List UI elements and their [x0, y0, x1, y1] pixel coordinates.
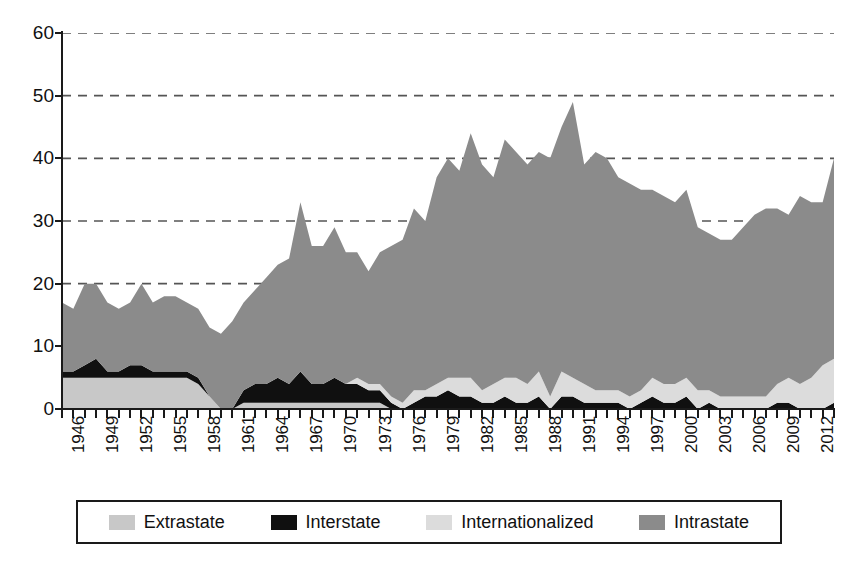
x-axis-tick-label: 1949 [103, 416, 123, 453]
x-axis-tick [674, 410, 676, 418]
y-axis-tick-label: 10 [18, 336, 54, 355]
x-axis-tick [95, 410, 97, 418]
x-axis-tick [333, 410, 335, 418]
x-axis-tick [265, 410, 267, 418]
x-axis-tick [129, 410, 131, 418]
y-axis-tick-label: 40 [18, 148, 54, 167]
x-axis-tick [640, 410, 642, 418]
y-axis-tick-label: 60 [18, 23, 54, 42]
x-axis-tick-label: 2000 [682, 416, 702, 453]
x-axis-tick-label: 1946 [69, 416, 89, 453]
x-axis-tick [708, 410, 710, 418]
legend-item-internationalized[interactable]: Internationalized [426, 513, 593, 531]
x-axis-tick-label: 2003 [716, 416, 736, 453]
stacked-area-chart [62, 33, 834, 409]
x-axis-tick [231, 410, 233, 418]
x-axis-tick-label: 2012 [818, 416, 838, 453]
plot-area [62, 33, 834, 409]
legend-label: Intrastate [674, 513, 749, 531]
x-axis-tick-label: 1961 [239, 416, 259, 453]
x-axis-tick-label: 1979 [444, 416, 464, 453]
x-axis-tick-label: 1982 [478, 416, 498, 453]
legend-label: Extrastate [144, 513, 225, 531]
x-axis-tick-label: 1976 [410, 416, 430, 453]
y-axis-tick-label: 0 [18, 399, 54, 418]
x-axis-tick-label: 2009 [784, 416, 804, 453]
x-axis-tick-label: 1997 [648, 416, 668, 453]
x-axis-tick [197, 410, 199, 418]
x-axis-tick [742, 410, 744, 418]
legend-item-intrastate[interactable]: Intrastate [639, 513, 749, 531]
legend-swatch-icon [426, 515, 452, 530]
x-axis-tick-label: 1973 [376, 416, 396, 453]
x-axis-tick [436, 410, 438, 418]
legend-swatch-icon [271, 515, 297, 530]
x-axis-tick [504, 410, 506, 418]
x-axis-tick-label: 1970 [341, 416, 361, 453]
x-axis-tick [538, 410, 540, 418]
x-axis-tick [299, 410, 301, 418]
legend-swatch-icon [109, 515, 135, 530]
x-axis-tick [606, 410, 608, 418]
y-axis-tick-label: 50 [18, 86, 54, 105]
chart-legend: ExtrastateInterstateInternationalizedInt… [76, 500, 782, 544]
x-axis-tick [776, 410, 778, 418]
y-axis-tick-label: 20 [18, 274, 54, 293]
x-axis-tick-label: 1985 [512, 416, 532, 453]
y-axis-labels: 6050403020100 [8, 0, 54, 440]
x-axis-tick [61, 410, 63, 418]
y-axis-tick-label: 30 [18, 211, 54, 230]
area-series-intrastate [62, 102, 834, 409]
legend-label: Interstate [306, 513, 381, 531]
x-axis-tick-label: 1994 [614, 416, 634, 453]
x-axis-tick-label: 1964 [273, 416, 293, 453]
x-axis-tick [163, 410, 165, 418]
x-axis-tick [368, 410, 370, 418]
x-axis-tick [470, 410, 472, 418]
x-axis-tick-label: 1955 [171, 416, 191, 453]
legend-item-extrastate[interactable]: Extrastate [109, 513, 225, 531]
legend-swatch-icon [639, 515, 665, 530]
x-axis-tick [402, 410, 404, 418]
x-axis-tick [810, 410, 812, 418]
y-axis-line [61, 31, 63, 411]
chart-figure: 6050403020100 19461949195219551958196119… [0, 0, 853, 571]
x-axis-tick-label: 1988 [546, 416, 566, 453]
x-axis-tick-label: 1958 [205, 416, 225, 453]
legend-item-interstate[interactable]: Interstate [271, 513, 381, 531]
x-axis-tick-label: 1952 [137, 416, 157, 453]
x-axis-tick-label: 1967 [307, 416, 327, 453]
x-axis-tick-label: 2006 [750, 416, 770, 453]
x-axis-tick-label: 1991 [580, 416, 600, 453]
legend-label: Internationalized [461, 513, 593, 531]
x-axis-tick [572, 410, 574, 418]
